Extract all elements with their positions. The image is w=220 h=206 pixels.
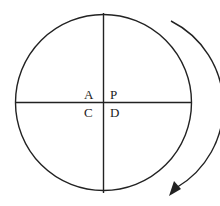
label-c: C [84,105,93,120]
label-a: A [84,87,94,102]
label-d: D [110,105,119,120]
clockwise-arrow-icon [169,21,220,196]
rotation-diagram: A P C D [0,0,220,206]
label-p: P [110,87,117,102]
